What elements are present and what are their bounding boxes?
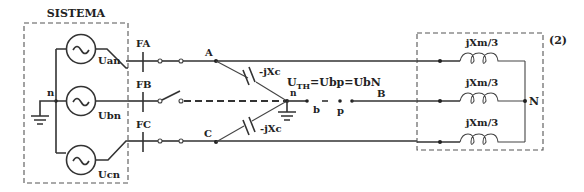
node-c-label: C — [204, 128, 212, 139]
cap-a-lead2 — [256, 82, 287, 101]
source-b: Ubn — [67, 87, 129, 122]
inductor-a: jXm/3 — [460, 37, 525, 64]
capacitor-icon — [243, 67, 255, 85]
sine-icon — [73, 158, 89, 165]
source-a: Uan — [67, 35, 129, 69]
node-b — [305, 99, 309, 103]
switch-b-contact — [158, 99, 162, 103]
node-a-label: A — [204, 47, 213, 58]
ground-lead — [40, 101, 56, 116]
sine-icon — [73, 47, 89, 54]
inductor-c-label: jXm/3 — [465, 117, 499, 128]
node-p — [338, 99, 342, 103]
load-box-tag: (2) — [549, 34, 567, 47]
load-box — [417, 33, 543, 150]
thevenin-label: UTH=Ubp=UbN — [287, 76, 381, 91]
inductor-icon — [460, 93, 525, 104]
cap-c-lead2 — [252, 101, 287, 121]
capacitor-c-label: -jXc — [260, 123, 282, 134]
ground-icon — [278, 112, 296, 120]
source-a-label: Uan — [98, 55, 121, 66]
node-b-upper-label: B — [377, 88, 385, 99]
inductor-b-label: jXm/3 — [465, 77, 499, 88]
inductor-icon — [460, 134, 525, 145]
inductor-c: jXm/3 — [460, 117, 525, 145]
node-N-label: N — [529, 95, 539, 108]
source-c: Ucn — [67, 141, 129, 180]
ground-icon — [31, 116, 49, 124]
node-N — [523, 99, 527, 103]
capacitor-a-label: -jXc — [259, 66, 281, 77]
neutral-label: n — [47, 87, 55, 98]
system-label: SISTEMA — [47, 7, 106, 20]
inductor-b: jXm/3 — [460, 77, 525, 104]
inductor-icon — [460, 53, 525, 64]
circuit-diagram: SISTEMA n Uan Ubn Ucn FA FB FC — [0, 0, 584, 192]
switch-b-blade — [162, 91, 180, 100]
inductor-a-label: jXm/3 — [465, 37, 499, 48]
cap-c-lead1 — [216, 126, 244, 142]
breaker-fa-label: FA — [136, 38, 151, 49]
breaker-fc-label: FC — [136, 119, 151, 130]
node-b-label: b — [313, 104, 320, 115]
source-b-label: Ubn — [98, 110, 122, 121]
node-p-label: p — [337, 105, 344, 116]
source-c-label: Ucn — [98, 169, 121, 180]
breaker-fb-label: FB — [136, 79, 152, 90]
sine-icon — [73, 99, 89, 106]
cap-a-lead1 — [216, 61, 248, 78]
